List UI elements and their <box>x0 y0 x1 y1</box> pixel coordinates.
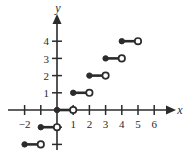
open-endpoint-dot <box>70 107 76 113</box>
x-tick-label-5: 5 <box>135 118 141 130</box>
step-function-graph: −2 1 2 3 4 5 6 1 2 3 4 x y <box>0 0 189 161</box>
open-endpoint-dot <box>102 72 108 78</box>
x-tick-label-neg2: −2 <box>19 118 31 130</box>
x-tick-label-3: 3 <box>103 118 109 130</box>
step-segment-3 <box>103 55 125 61</box>
step-segment-neg2 <box>22 141 44 147</box>
step-segment-4 <box>119 38 141 44</box>
x-tick-label-4: 4 <box>119 118 125 130</box>
closed-endpoint-dot <box>71 90 76 95</box>
y-axis-arrow-icon <box>53 14 62 24</box>
x-axis-label: x <box>176 103 183 117</box>
open-endpoint-dot <box>119 55 125 61</box>
step-segment-neg1 <box>38 124 60 130</box>
closed-endpoint-dot <box>87 73 92 78</box>
y-tick-label-3: 3 <box>44 53 50 65</box>
open-endpoint-dot <box>86 90 92 96</box>
closed-endpoint-dot <box>22 142 27 147</box>
open-endpoint-dot <box>135 38 141 44</box>
closed-endpoint-dot <box>38 125 43 130</box>
step-segment-0 <box>54 107 76 113</box>
x-tick-label-6: 6 <box>151 118 157 130</box>
step-segment-1 <box>71 90 93 96</box>
x-tick-label-2: 2 <box>87 118 93 130</box>
figure-canvas: −2 1 2 3 4 5 6 1 2 3 4 x y <box>0 0 189 161</box>
x-axis-arrow-icon <box>166 106 176 115</box>
closed-endpoint-dot <box>103 56 108 61</box>
open-endpoint-dot <box>38 141 44 147</box>
y-tick-label-2: 2 <box>44 70 50 82</box>
y-tick-labels: 1 2 3 4 <box>44 35 50 99</box>
step-segment-2 <box>87 72 109 78</box>
x-axis-group <box>8 106 176 115</box>
x-tick-label-1: 1 <box>70 118 76 130</box>
closed-endpoint-dot <box>119 39 124 44</box>
closed-endpoint-dot <box>54 107 59 112</box>
open-endpoint-dot <box>54 124 60 130</box>
y-axis-label: y <box>54 1 61 15</box>
y-tick-label-4: 4 <box>44 35 50 47</box>
y-tick-label-1: 1 <box>44 87 50 99</box>
